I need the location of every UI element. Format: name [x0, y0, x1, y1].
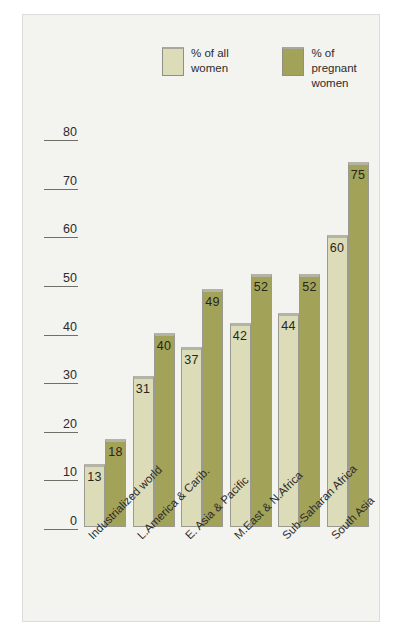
x-axis-labels: Industrialized worldL.America & Carib.E.…	[22, 14, 380, 622]
x-axis-label: South Asia	[329, 494, 376, 541]
chart-panel: % of all women % of pregnant women 01020…	[22, 14, 380, 622]
